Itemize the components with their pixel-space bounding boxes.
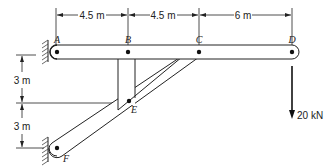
wall-support-a-icon [42,40,48,64]
dimension-ab-label: 4.5 m [79,10,104,21]
point-label-a: A [53,34,61,45]
member-ad [50,45,299,59]
dimension-cd-label: 6 m [235,10,252,21]
frame-diagram: 4.5 m 4.5 m 6 m 3 m 3 m [0,0,334,167]
dimension-bc-label: 4.5 m [150,10,175,21]
point-label-b: B [125,34,131,45]
pin-a-icon [55,50,59,54]
dimension-lower-3m-label: 3 m [14,121,31,132]
point-label-e: E [130,104,137,115]
pin-b-icon [126,50,130,54]
point-label-c: C [196,34,203,45]
load-label: 20 kN [297,110,323,121]
wall-support-f-icon [42,137,48,165]
pin-c-icon [197,50,201,54]
dimension-upper-3m-label: 3 m [14,75,31,86]
pin-f-icon [55,146,59,150]
point-label-f: F [62,153,70,164]
pin-e-icon [127,99,131,103]
point-label-d: D [287,34,296,45]
load-arrow-down-icon [289,66,295,119]
pin-d-icon [290,50,294,54]
